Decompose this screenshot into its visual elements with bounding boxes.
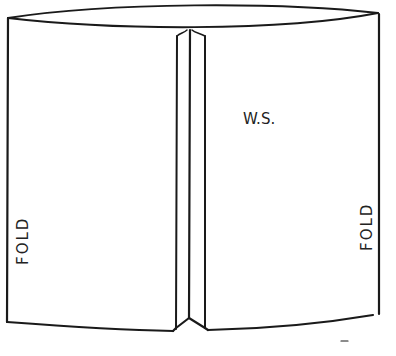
fold-label-right: FOLD [358,203,376,251]
bottom-hem-left [7,322,173,331]
fold-label-left: FOLD [14,217,32,265]
pleat-top-cusp-right [192,30,205,36]
left-fold-edge [7,18,8,322]
top-opening-lower-edge [8,13,378,27]
sewing-diagram: FOLD FOLD W.S. [0,0,396,356]
wrong-side-label: W.S. [243,110,275,128]
bottom-hem-notch [173,318,208,331]
bottom-hem-right [208,315,373,330]
pleat-line-left [176,36,177,329]
pleat-top-cusp-left [177,30,187,36]
pleat-line-center [189,30,190,318]
top-opening-upper-edge [8,5,378,18]
